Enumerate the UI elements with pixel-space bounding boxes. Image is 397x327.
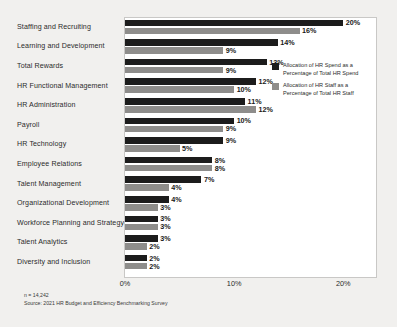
chart-row: Workforce Planning and Strategy3%3% [0,213,397,233]
chart-row: Payroll10%9% [0,115,397,135]
bar-dark [125,235,158,242]
bar-gray [125,28,300,35]
bar-value-label: 8% [215,157,225,164]
bar-value-label: 11% [248,98,262,105]
category-label: Total Rewards [17,62,63,70]
bar-value-label: 9% [226,47,236,54]
legend-label-line1: Allocation of HR Spend as a [283,62,390,70]
category-label: Staffing and Recruiting [17,23,91,31]
legend-swatch-dark [272,63,279,70]
bar-group: 20%16% [125,18,397,35]
chart-row: Staffing and Recruiting20%16% [0,17,397,37]
bar-dark [125,157,212,164]
category-label: Diversity and Inclusion [17,258,90,266]
bar-dark [125,118,234,125]
bar-dark [125,176,201,183]
category-label: Learning and Development [17,42,105,50]
x-axis-tick: 0% [120,279,131,288]
bar-group: 7%4% [125,175,397,192]
bar-group: 14%9% [125,38,397,55]
bar-gray [125,86,234,93]
category-label: HR Administration [17,101,75,109]
chart-footnote: n = 14,242 Source: 2021 HR Budget and Ef… [24,292,354,308]
bar-value-label: 12% [258,106,272,113]
chart-row: Talent Analytics3%2% [0,233,397,253]
bar-group: 4%3% [125,195,397,212]
bar-dark [125,216,158,223]
bar-value-label: 14% [280,39,294,46]
category-label: Talent Analytics [17,238,68,246]
bar-group: 8%8% [125,156,397,173]
category-label: Workforce Planning and Strategy [17,219,124,227]
bar-value-label: 9% [226,67,236,74]
chart-figure: Staffing and Recruiting20%16%Learning an… [0,0,397,327]
category-label: Employee Relations [17,160,82,168]
bar-gray [125,184,169,191]
bar-gray [125,67,223,74]
bar-value-label: 10% [237,117,251,124]
bar-value-label: 2% [149,243,159,250]
bar-gray [125,47,223,54]
bar-value-label: 20% [346,19,360,26]
bar-dark [125,39,278,46]
sample-size-note: n = 14,242 [24,292,354,300]
bar-value-label: 16% [302,27,316,34]
chart-row: Talent Management7%4% [0,174,397,194]
bar-dark [125,59,267,66]
bar-value-label: 8% [215,165,225,172]
bar-value-label: 12% [258,78,272,85]
legend-label-line2: Percentage of Total HR Spend [283,70,390,78]
bar-value-label: 9% [226,125,236,132]
bar-group: 2%2% [125,254,397,271]
category-label: Talent Management [17,180,81,188]
bar-gray [125,224,158,231]
bar-gray [125,243,147,250]
legend-label-line1: Allocation of HR Staff as a [283,82,390,90]
bar-rows: Staffing and Recruiting20%16%Learning an… [0,17,397,272]
bar-value-label: 3% [160,235,170,242]
bar-value-label: 4% [171,196,181,203]
bar-value-label: 5% [182,145,192,152]
bar-group: 3%3% [125,214,397,231]
chart-legend: Allocation of HR Spend as aPercentage of… [272,62,390,102]
category-label: Payroll [17,121,39,129]
legend-swatch-gray [272,83,279,90]
bar-gray [125,145,180,152]
bar-dark [125,98,245,105]
bar-value-label: 7% [204,176,214,183]
bar-dark [125,255,147,262]
source-note: Source: 2021 HR Budget and Efficiency Be… [24,300,354,308]
chart-row: Diversity and Inclusion2%2% [0,252,397,272]
bar-value-label: 2% [149,255,159,262]
bar-value-label: 4% [171,184,181,191]
bar-value-label: 9% [226,137,236,144]
chart-row: Employee Relations8%8% [0,154,397,174]
bar-dark [125,78,256,85]
bar-gray [125,126,223,133]
bar-gray [125,204,158,211]
bar-gray [125,106,256,113]
bar-dark [125,196,169,203]
bar-gray [125,263,147,270]
bar-dark [125,137,223,144]
x-axis-tick: 20% [336,279,351,288]
legend-item[interactable]: Allocation of HR Staff as aPercentage of… [272,82,390,98]
category-label: HR Functional Management [17,82,108,90]
chart-row: Organizational Development4%3% [0,193,397,213]
category-label: Organizational Development [17,199,109,207]
x-axis-tick: 10% [227,279,242,288]
bar-value-label: 2% [149,263,159,270]
category-label: HR Technology [17,140,66,148]
bar-group: 3%2% [125,234,397,251]
bar-value-label: 3% [160,223,170,230]
bar-value-label: 3% [160,204,170,211]
legend-item[interactable]: Allocation of HR Spend as aPercentage of… [272,62,390,78]
chart-row: Learning and Development14%9% [0,37,397,57]
bar-gray [125,165,212,172]
legend-label-line2: Percentage of Total HR Staff [283,90,390,98]
bar-dark [125,20,343,27]
bar-group: 10%9% [125,116,397,133]
bar-group: 9%5% [125,136,397,153]
chart-row: HR Technology9%5% [0,135,397,155]
bar-value-label: 10% [237,86,251,93]
